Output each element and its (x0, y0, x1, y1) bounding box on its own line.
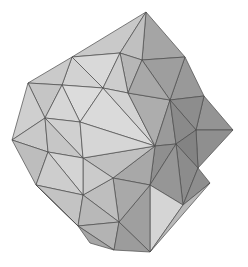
render-canvas (0, 0, 248, 267)
polyhedron-render (0, 0, 248, 267)
